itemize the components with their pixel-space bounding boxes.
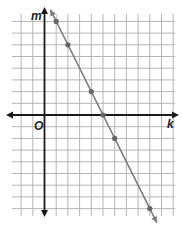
data-point [65, 42, 70, 47]
data-point [112, 136, 117, 141]
y-axis-up-arrow-icon [41, 7, 48, 14]
x-axis-label: k [167, 117, 175, 131]
data-point [147, 206, 152, 211]
data-line [50, 10, 156, 223]
y-axis-down-arrow-icon [41, 210, 48, 217]
data-point [89, 89, 94, 94]
data-point [54, 19, 59, 24]
data-point [100, 112, 105, 117]
y-axis-label: m [31, 9, 42, 23]
x-axis-left-arrow-icon [6, 112, 13, 119]
origin-label: O [34, 119, 44, 133]
coordinate-graph: m k O [0, 0, 183, 237]
